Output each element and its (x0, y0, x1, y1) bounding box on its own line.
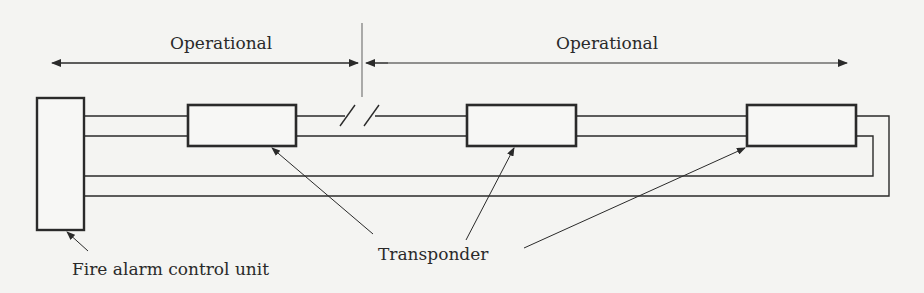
control-unit-label: Fire alarm control unit (72, 261, 269, 278)
fire-alarm-control-unit-box (37, 98, 84, 230)
transponder-1-leader-arrow (272, 148, 373, 234)
transponder-box-2 (467, 105, 576, 146)
control-unit-leader-arrow (67, 232, 88, 251)
transponder-3-leader-arrow (524, 148, 745, 248)
operational-label-left: Operational (170, 35, 272, 52)
operational-label-right: Operational (556, 35, 658, 52)
line-break-symbol (340, 105, 379, 126)
transponder-box-3 (747, 105, 856, 146)
transponder-2-leader-arrow (466, 148, 514, 240)
transponder-label: Transponder (378, 246, 488, 263)
transponder-box-1 (188, 105, 296, 146)
diagram-canvas: Operational Operational Fire alarm contr… (0, 0, 924, 293)
